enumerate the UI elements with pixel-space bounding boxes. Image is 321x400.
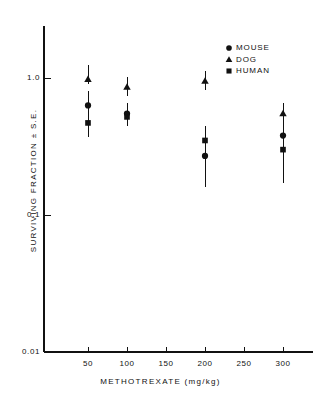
data-point-dog-200 <box>201 77 208 83</box>
y-tick-label: 0.01 <box>8 347 40 356</box>
x-tick-label: 300 <box>263 359 303 368</box>
data-point-dog-100 <box>123 83 130 89</box>
data-point-human-300 <box>280 147 286 153</box>
axis-spines <box>44 26 313 352</box>
x-tick-label: 250 <box>224 359 264 368</box>
data-markers <box>84 75 286 159</box>
legend-marker-mouse <box>226 45 232 51</box>
y-axis-ticks <box>44 78 51 352</box>
data-point-human-50 <box>85 120 91 126</box>
data-point-mouse-50 <box>85 102 91 108</box>
legend-markers <box>226 45 233 73</box>
x-tick-label: 100 <box>107 359 147 368</box>
x-axis-title: METHOTREXATE (mg/kg) <box>0 377 321 386</box>
x-tick-label: 200 <box>185 359 225 368</box>
x-axis-ticks <box>88 347 283 352</box>
legend-label-dog: DOG <box>236 55 257 64</box>
error-bars <box>88 65 283 187</box>
x-tick-label: 150 <box>146 359 186 368</box>
y-tick-label: 1.0 <box>8 73 40 82</box>
figure-panel: 50100150200250300 1.00.10.01 MOUSEDOGHUM… <box>0 0 321 400</box>
data-point-human-200 <box>202 138 208 144</box>
legend-marker-human <box>226 68 231 73</box>
data-point-dog-300 <box>279 110 286 116</box>
data-point-mouse-300 <box>280 132 286 138</box>
data-point-dog-50 <box>84 75 91 81</box>
legend-label-human: HUMAN <box>236 66 270 75</box>
chart-canvas <box>0 0 321 400</box>
data-point-human-100 <box>124 114 130 120</box>
data-point-mouse-200 <box>202 153 208 159</box>
x-tick-label: 50 <box>68 359 108 368</box>
y-axis-title: SURVIVING FRACTION ± S.E. <box>29 101 38 261</box>
legend-marker-dog <box>226 56 233 62</box>
legend-label-mouse: MOUSE <box>236 43 270 52</box>
